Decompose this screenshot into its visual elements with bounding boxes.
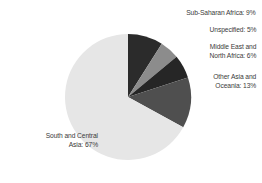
pie-label-sub-saharan-africa: Sub-Saharan Africa: 9% <box>187 8 256 17</box>
pie-label-unspecified: Unspecified: 5% <box>209 25 256 34</box>
pie-label-middle-east-north-africa: Middle East and North Africa: 6% <box>209 42 256 60</box>
pie-label-other-asia-oceania: Other Asia and Oceania: 13% <box>213 72 256 90</box>
pie-label-south-central-asia: South and Central Asia: 67% <box>11 131 98 149</box>
pie-chart-figure: Sub-Saharan Africa: 9% Unspecified: 5% M… <box>0 0 262 183</box>
